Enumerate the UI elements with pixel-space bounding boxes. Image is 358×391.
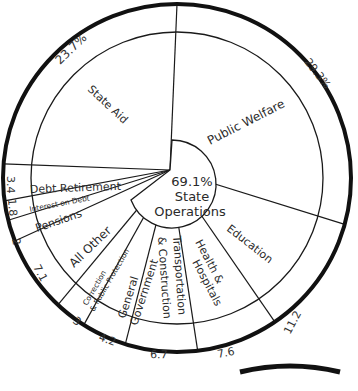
value-debt-retirement: 3.4 bbox=[4, 176, 17, 194]
slice-divider bbox=[4, 164, 170, 170]
value-transport: 6.7 bbox=[150, 348, 168, 362]
value-general: 4.2 bbox=[97, 331, 118, 349]
value-interest: 1.8 bbox=[5, 198, 19, 217]
center-line1: State bbox=[175, 189, 209, 204]
value-public-welfare: 29.3% bbox=[302, 56, 334, 92]
label-state-aid: State Aid bbox=[85, 83, 131, 127]
center-line2: Operations bbox=[154, 204, 226, 219]
center-value: 69.1% bbox=[171, 174, 212, 189]
value-pensions: 2 bbox=[9, 237, 23, 247]
label-public-welfare: Public Welfare bbox=[205, 97, 287, 148]
pie-chart: 69.1% State Operations Public Welfare Ed… bbox=[0, 0, 358, 391]
value-health: 7.6 bbox=[216, 345, 236, 361]
next-chart-arc bbox=[240, 366, 340, 372]
value-all-other: 7.1 bbox=[30, 262, 50, 284]
label-debt-retirement: Debt Retirement bbox=[30, 180, 122, 196]
